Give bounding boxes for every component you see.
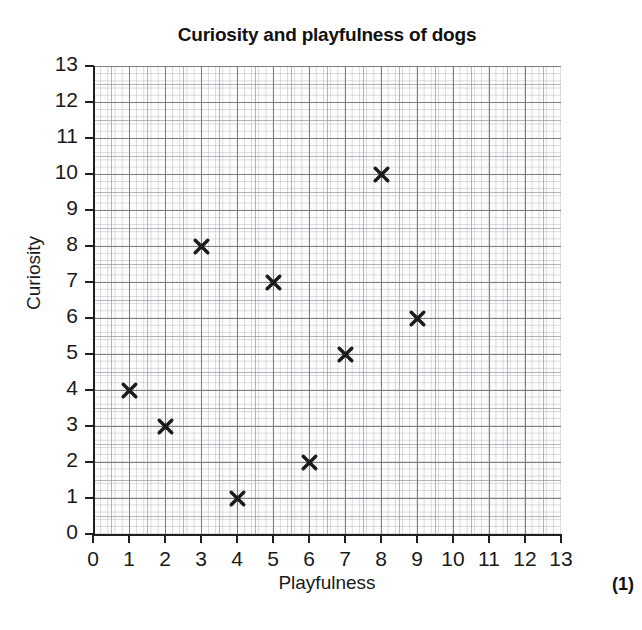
data-point-marker [120, 381, 139, 400]
y-tick-label: 4 [38, 376, 78, 400]
data-point-marker [228, 489, 247, 508]
x-tick-mark [560, 534, 562, 543]
y-tick-label: 5 [38, 340, 78, 364]
y-tick-mark [85, 317, 94, 319]
y-tick-label: 2 [38, 448, 78, 472]
y-tick-label: 1 [38, 484, 78, 508]
y-tick-mark [85, 461, 94, 463]
x-tick-label: 1 [109, 547, 149, 571]
x-tick-label: 11 [469, 547, 509, 571]
data-point-marker [408, 309, 427, 328]
data-point-marker [192, 237, 211, 256]
y-tick-label: 0 [38, 520, 78, 544]
x-tick-label: 0 [73, 547, 113, 571]
data-point-marker [156, 417, 175, 436]
y-tick-mark [85, 101, 94, 103]
y-tick-label: 12 [38, 88, 78, 112]
x-tick-mark [488, 534, 490, 543]
x-tick-label: 12 [505, 547, 545, 571]
data-point-marker [264, 273, 283, 292]
x-tick-mark [416, 534, 418, 543]
x-axis-label: Playfulness [93, 572, 561, 594]
x-tick-mark [128, 534, 130, 543]
y-tick-label: 3 [38, 412, 78, 436]
x-tick-mark [344, 534, 346, 543]
data-point-marker [300, 453, 319, 472]
x-tick-mark [200, 534, 202, 543]
x-tick-label: 7 [325, 547, 365, 571]
y-tick-mark [85, 65, 94, 67]
x-tick-mark [380, 534, 382, 543]
y-tick-mark [85, 209, 94, 211]
x-tick-label: 3 [181, 547, 221, 571]
y-tick-mark [85, 353, 94, 355]
chart-title: Curiosity and playfulness of dogs [93, 24, 561, 46]
x-tick-mark [452, 534, 454, 543]
x-tick-label: 5 [253, 547, 293, 571]
y-axis-label: Curiosity [23, 213, 45, 333]
y-tick-mark [85, 389, 94, 391]
x-tick-label: 9 [397, 547, 437, 571]
data-point-marker [372, 165, 391, 184]
y-tick-label: 10 [38, 160, 78, 184]
y-tick-mark [85, 173, 94, 175]
y-tick-mark [85, 137, 94, 139]
x-tick-label: 2 [145, 547, 185, 571]
y-tick-mark [85, 533, 94, 535]
y-tick-label: 13 [38, 52, 78, 76]
x-tick-mark [272, 534, 274, 543]
plot-grid-area [93, 66, 561, 534]
x-tick-label: 13 [541, 547, 581, 571]
x-tick-mark [236, 534, 238, 543]
x-tick-label: 4 [217, 547, 257, 571]
y-tick-mark [85, 281, 94, 283]
x-tick-mark [308, 534, 310, 543]
x-tick-label: 6 [289, 547, 329, 571]
data-point-marker [336, 345, 355, 364]
y-tick-mark [85, 245, 94, 247]
y-tick-mark [85, 497, 94, 499]
marks-annotation: (1) [612, 574, 634, 595]
x-tick-mark [164, 534, 166, 543]
y-tick-mark [85, 425, 94, 427]
x-tick-mark [524, 534, 526, 543]
x-tick-label: 8 [361, 547, 401, 571]
x-tick-mark [92, 534, 94, 543]
scatter-plot-figure: Curiosity and playfulness of dogs 012345… [0, 0, 642, 630]
x-tick-label: 10 [433, 547, 473, 571]
y-tick-label: 11 [38, 124, 78, 148]
